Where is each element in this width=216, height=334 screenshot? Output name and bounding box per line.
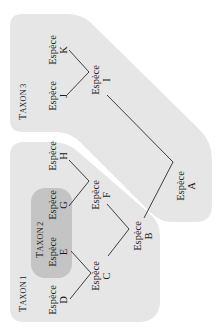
svg-text:K: K bbox=[58, 46, 69, 54]
svg-text:Espèce: Espèce bbox=[132, 221, 143, 251]
svg-text:A: A bbox=[186, 182, 197, 190]
svg-text:I: I bbox=[101, 78, 112, 82]
svg-text:Espèce: Espèce bbox=[47, 285, 58, 315]
phylogenetic-tree-diagram: TAXON3 TAXON2 TAXON1 Espèce K Espèce J E… bbox=[0, 0, 216, 334]
svg-text:Espèce: Espèce bbox=[90, 180, 101, 210]
svg-text:F: F bbox=[101, 192, 112, 198]
svg-text:Espèce: Espèce bbox=[175, 171, 186, 201]
svg-text:Espèce: Espèce bbox=[90, 261, 101, 291]
svg-text:Espèce: Espèce bbox=[47, 81, 58, 111]
svg-text:D: D bbox=[58, 296, 69, 304]
svg-text:G: G bbox=[58, 201, 69, 209]
svg-text:Espèce: Espèce bbox=[90, 65, 101, 95]
svg-text:B: B bbox=[143, 232, 154, 239]
svg-text:Espèce: Espèce bbox=[47, 190, 58, 220]
svg-text:J: J bbox=[58, 94, 69, 98]
svg-text:H: H bbox=[58, 152, 69, 160]
svg-text:C: C bbox=[101, 272, 112, 279]
svg-text:Espèce: Espèce bbox=[47, 35, 58, 65]
svg-text:Espèce: Espèce bbox=[47, 237, 58, 267]
svg-text:E: E bbox=[58, 249, 69, 255]
svg-text:Espèce: Espèce bbox=[47, 141, 58, 171]
